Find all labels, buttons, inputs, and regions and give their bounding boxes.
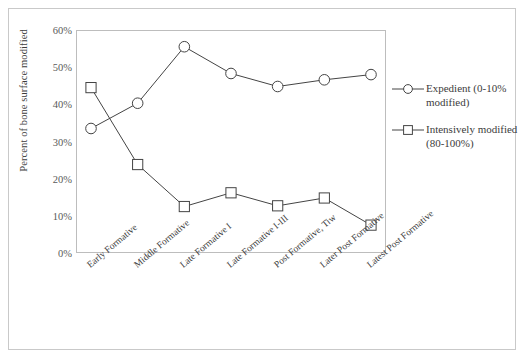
x-axis-tick-labels: Early FormativeMiddle FormativeLate Form… <box>0 0 526 360</box>
legend-marker-circle-icon <box>392 83 424 95</box>
legend: Expedient (0-10% modified) Intensively m… <box>392 82 520 164</box>
legend-marker-square-icon <box>392 124 424 136</box>
legend-item[interactable]: Expedient (0-10% modified) <box>392 82 520 109</box>
legend-label: Expedient (0-10% modified) <box>426 82 520 109</box>
legend-label: Intensively modified (80-100%) <box>426 123 520 150</box>
legend-item[interactable]: Intensively modified (80-100%) <box>392 123 520 150</box>
x-axis-tick: Early Formative <box>85 222 139 270</box>
line-chart: Percent of bone surface modified 0%10%20… <box>0 0 526 360</box>
